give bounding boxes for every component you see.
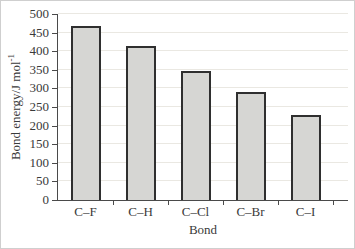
gridline-450 xyxy=(58,32,348,33)
y-tick-label-300: 300 xyxy=(1,81,49,95)
x-tick xyxy=(333,201,334,205)
y-tick-label-100: 100 xyxy=(1,156,49,170)
bar-c-i xyxy=(291,115,321,200)
bar-c-h xyxy=(126,46,156,200)
bar-c-br xyxy=(236,92,266,200)
bar-c-cl xyxy=(181,71,211,200)
y-tick-250 xyxy=(52,107,57,108)
y-tick-label-450: 450 xyxy=(1,26,49,40)
y-tick-300 xyxy=(52,88,57,89)
y-tick-150 xyxy=(52,144,57,145)
y-tick-500 xyxy=(52,14,57,15)
x-category-label: C–Cl xyxy=(168,204,223,219)
y-tick-0 xyxy=(52,200,57,201)
y-tick-label-250: 250 xyxy=(1,100,49,114)
y-tick-label-350: 350 xyxy=(1,63,49,77)
y-tick-400 xyxy=(52,51,57,52)
bar-c-f xyxy=(71,26,101,200)
y-tick-label-150: 150 xyxy=(1,137,49,151)
gridline-500 xyxy=(58,13,348,14)
bond-energy-bar-chart: Bond energy/J mol-1 Bond C–FC–HC–ClC–BrC… xyxy=(0,0,355,249)
x-category-label: C–F xyxy=(58,204,113,219)
y-tick-200 xyxy=(52,126,57,127)
gridline-400 xyxy=(58,50,348,51)
y-tick-100 xyxy=(52,163,57,164)
y-tick-label-50: 50 xyxy=(1,174,49,188)
y-tick-label-200: 200 xyxy=(1,119,49,133)
y-tick-label-500: 500 xyxy=(1,7,49,21)
y-tick-50 xyxy=(52,181,57,182)
plot-area xyxy=(57,14,348,201)
y-tick-label-0: 0 xyxy=(1,193,49,207)
y-tick-350 xyxy=(52,70,57,71)
x-axis-title: Bond xyxy=(58,222,348,238)
gridline-350 xyxy=(58,69,348,70)
y-tick-450 xyxy=(52,33,57,34)
x-category-label: C–I xyxy=(278,204,333,219)
x-category-label: C–H xyxy=(113,204,168,219)
y-tick-label-400: 400 xyxy=(1,44,49,58)
x-category-label: C–Br xyxy=(223,204,278,219)
